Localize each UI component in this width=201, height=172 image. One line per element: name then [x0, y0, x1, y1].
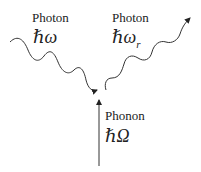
- incident-photon-label: Photon: [32, 10, 69, 26]
- incident-photon-energy: ℏω: [33, 26, 57, 48]
- diagram-lines: [0, 0, 201, 172]
- scattered-photon-label: Photon: [112, 10, 149, 26]
- scattered-photon-energy-sub: r: [136, 38, 140, 50]
- phonon-label: Phonon: [105, 108, 145, 124]
- scattered-photon-energy-base: ℏω: [112, 27, 136, 47]
- scattering-diagram: Photon ℏω Photon ℏωr Phonon ℏΩ: [0, 0, 201, 172]
- phonon-energy: ℏΩ: [105, 125, 130, 147]
- scattered-photon-energy: ℏωr: [112, 26, 141, 50]
